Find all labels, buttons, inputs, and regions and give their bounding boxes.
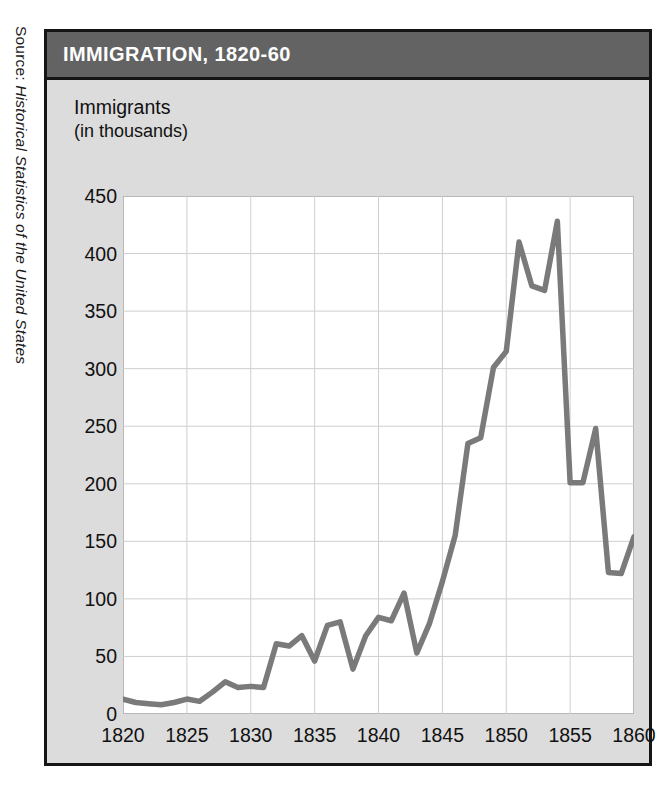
x-tick-label: 1860: [612, 724, 655, 747]
y-axis-block-label: Immigrants (in thousands): [74, 95, 188, 143]
y-axis-label-line2: (in thousands): [74, 119, 188, 143]
plot-wrapper: [123, 196, 634, 714]
y-tick-label: 300: [63, 357, 117, 380]
x-tick-label: 1820: [101, 724, 144, 747]
x-tick-label: 1835: [293, 724, 336, 747]
source-title: Historical Statistics of the United Stat…: [13, 85, 30, 364]
x-tick-label: 1825: [165, 724, 208, 747]
y-tick-label: 450: [63, 185, 117, 208]
y-tick-label: 100: [63, 587, 117, 610]
y-tick-label: 200: [63, 472, 117, 495]
x-tick-label: 1840: [357, 724, 400, 747]
chart-title: IMMIGRATION, 1820-60: [63, 43, 291, 66]
chart-figure: IMMIGRATION, 1820-60 Immigrants (in thou…: [44, 29, 652, 766]
y-tick-label: 50: [63, 645, 117, 668]
x-tick-label: 1845: [421, 724, 464, 747]
y-tick-label: 150: [63, 530, 117, 553]
source-caption-text: Source: Historical Statistics of the Uni…: [12, 26, 30, 364]
x-tick-label: 1855: [548, 724, 591, 747]
y-tick-label: 400: [63, 242, 117, 265]
x-axis-ticks: 182018251830183518401845185018551860: [123, 724, 634, 754]
source-prefix: Source:: [13, 26, 30, 85]
source-caption: Source: Historical Statistics of the Uni…: [0, 0, 38, 799]
y-axis-label-line1: Immigrants: [74, 95, 188, 119]
y-tick-label: 0: [63, 703, 117, 726]
y-axis-ticks: 450400350300250200150100500: [55, 196, 117, 714]
immigration-line-chart: [123, 196, 634, 714]
y-tick-label: 250: [63, 415, 117, 438]
x-tick-label: 1850: [485, 724, 528, 747]
chart-header-band: IMMIGRATION, 1820-60: [47, 32, 649, 80]
y-tick-label: 350: [63, 300, 117, 323]
x-tick-label: 1830: [229, 724, 272, 747]
